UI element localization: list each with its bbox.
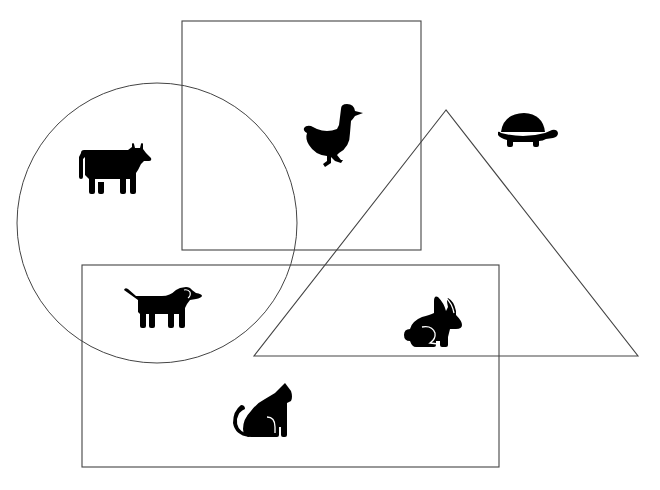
- left-circle: [17, 83, 297, 363]
- turtle-icon: [498, 113, 558, 147]
- cat-icon: [233, 383, 292, 437]
- top-rectangle: [182, 21, 421, 250]
- venn-diagram-canvas: [0, 0, 660, 490]
- duck-icon: [304, 104, 363, 167]
- rabbit-icon: [404, 297, 462, 348]
- cow-icon: [79, 143, 151, 194]
- dog-icon: [124, 287, 202, 328]
- bottom-rectangle: [82, 265, 499, 467]
